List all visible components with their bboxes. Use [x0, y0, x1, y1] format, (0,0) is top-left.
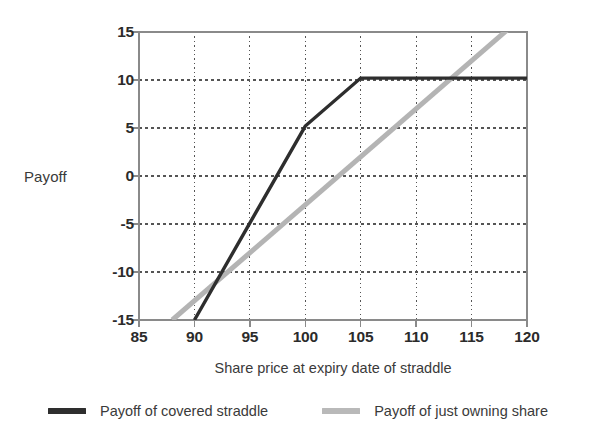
x-axis-tick-label: 100: [275, 328, 335, 346]
x-axis-tick-label: 110: [386, 328, 446, 346]
legend-color-swatch: [322, 408, 360, 414]
x-axis-tick-label: 90: [164, 328, 224, 346]
legend-entry: Payoff of just owning share: [322, 403, 548, 419]
legend-label: Payoff of covered straddle: [100, 403, 268, 419]
x-axis-tick-label: 105: [331, 328, 391, 346]
x-axis-tick-label: 95: [220, 328, 280, 346]
legend-label: Payoff of just owning share: [374, 403, 548, 419]
x-axis-tick-label: 120: [497, 328, 557, 346]
legend-entry: Payoff of covered straddle: [48, 403, 268, 419]
x-axis-title: Share price at expiry date of straddle: [139, 360, 527, 376]
x-axis-tick-label: 85: [109, 328, 169, 346]
chart-legend: Payoff of covered straddlePayoff of just…: [0, 398, 596, 424]
x-axis-tick-label: 115: [442, 328, 502, 346]
legend-color-swatch: [48, 408, 86, 414]
chart-figure: Payoff 151050-5-10-15 859095100105110115…: [0, 0, 596, 438]
